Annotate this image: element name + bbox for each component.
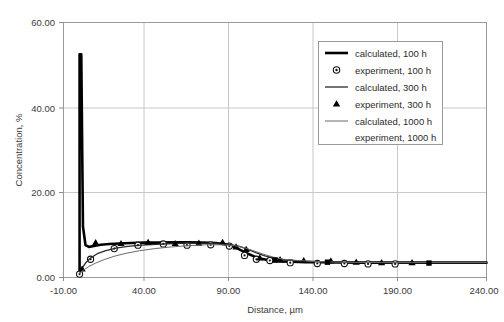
legend-marker-circle-center-dot <box>335 69 337 71</box>
legend-label-experiment-1000h: experiment, 1000 h <box>355 132 436 143</box>
data-marker <box>325 260 330 265</box>
data-marker <box>272 257 277 262</box>
y-tick-label-60: 60.00 <box>31 17 55 28</box>
x-axis-title: Distance, µm <box>247 304 303 315</box>
data-marker-dot <box>289 262 291 264</box>
x-tick-label--10: -10.00 <box>50 285 77 296</box>
x-tick-label-40: 40.00 <box>132 285 156 296</box>
legend-label-calculated-100h: calculated, 100 h <box>355 48 427 59</box>
y-tick-label-40: 40.00 <box>31 103 55 114</box>
data-marker-dot <box>316 262 318 264</box>
data-marker-dot <box>367 263 369 265</box>
data-marker-dot <box>269 259 271 261</box>
legend-label-experiment-300h: experiment, 300 h <box>355 99 431 110</box>
legend-label-calculated-300h: calculated, 300 h <box>355 82 427 93</box>
legend-item-experiment-1000h[interactable]: experiment, 1000 h <box>355 132 436 143</box>
y-tick-label-20: 20.00 <box>31 187 55 198</box>
concentration-vs-distance-chart: 60.00 40.00 20.00 0.00 -10.00 40.00 90.0… <box>0 0 504 322</box>
x-tick-label-140: 140.00 <box>298 285 327 296</box>
legend-label-calculated-1000h: calculated, 1000 h <box>355 116 432 127</box>
legend-label-experiment-100h: experiment, 100 h <box>355 65 431 76</box>
data-marker-dot <box>243 254 245 256</box>
x-tick-label-190: 190.00 <box>383 285 412 296</box>
y-tick-label-0: 0.00 <box>37 272 56 283</box>
x-tick-label-90: 90.00 <box>217 285 241 296</box>
y-axis-title: Concentration, % <box>13 113 24 186</box>
data-marker <box>426 260 431 265</box>
chart-figure: 60.00 40.00 20.00 0.00 -10.00 40.00 90.0… <box>0 0 504 322</box>
x-tick-label-240: 240.00 <box>469 285 498 296</box>
chart-legend: calculated, 100 h experiment, 100 h calc… <box>319 42 443 145</box>
